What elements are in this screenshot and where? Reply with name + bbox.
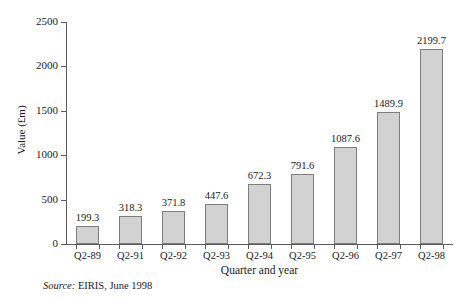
x-tick-mark	[142, 244, 143, 249]
bar-chart-figure: Value (£m) 05001000150020002500 Q2-89Q2-…	[0, 0, 461, 298]
y-tick-mark	[61, 155, 67, 156]
x-tick-mark	[420, 244, 421, 249]
y-tick-mark	[61, 111, 67, 112]
x-tick-mark	[334, 244, 335, 249]
bar-value-label: 1489.9	[359, 98, 419, 109]
x-tick-mark	[205, 244, 206, 249]
x-tick-mark	[228, 244, 229, 249]
y-tick-label: 2500	[22, 16, 58, 27]
y-tick-label: 2000	[22, 60, 58, 71]
x-tick-mark	[291, 244, 292, 249]
bar	[162, 211, 185, 244]
y-tick-label: 1000	[22, 149, 58, 160]
y-tick-label-wrap: 2000	[20, 60, 58, 71]
source-value: EIRIS, June 1998	[78, 280, 152, 291]
x-tick-mark	[162, 244, 163, 249]
bar-value-label: 1087.6	[316, 133, 376, 144]
bar-value-label: 791.6	[273, 160, 333, 171]
x-tick-mark	[248, 244, 249, 249]
y-tick-label-wrap: 1000	[20, 149, 58, 160]
y-tick-mark	[61, 66, 67, 67]
bar	[291, 174, 314, 244]
x-tick-mark	[185, 244, 186, 249]
x-axis-title: Quarter and year	[66, 264, 453, 277]
bar	[119, 216, 142, 244]
x-axis-line	[66, 244, 453, 245]
y-tick-label-wrap: 0	[20, 238, 58, 249]
x-tick-mark	[99, 244, 100, 249]
y-tick-mark	[61, 200, 67, 201]
x-tick-label: Q2-98	[402, 250, 461, 262]
bar-value-label: 447.6	[187, 190, 247, 201]
y-tick-mark	[61, 22, 67, 23]
x-tick-mark	[377, 244, 378, 249]
bar	[420, 49, 443, 244]
x-tick-mark	[357, 244, 358, 249]
y-tick-label-wrap: 1500	[20, 105, 58, 116]
bar	[377, 112, 400, 244]
x-tick-mark	[314, 244, 315, 249]
bar	[205, 204, 228, 244]
bar	[248, 184, 271, 244]
y-tick-label: 500	[22, 194, 58, 205]
y-tick-label: 0	[22, 238, 58, 249]
x-tick-mark	[119, 244, 120, 249]
x-tick-mark	[400, 244, 401, 249]
y-tick-mark	[61, 244, 67, 245]
y-tick-label: 1500	[22, 105, 58, 116]
bar	[76, 226, 99, 244]
source-label: Source:	[43, 280, 75, 291]
x-tick-mark	[271, 244, 272, 249]
x-tick-mark	[76, 244, 77, 249]
y-tick-label-wrap: 2500	[20, 16, 58, 27]
bar-value-label: 199.3	[58, 212, 118, 223]
y-tick-label-wrap: 500	[20, 194, 58, 205]
y-axis-title: Value (£m)	[12, 85, 30, 175]
source-note: Source: EIRIS, June 1998	[43, 280, 152, 292]
bar-value-label: 2199.7	[402, 35, 461, 46]
bar-value-label: 672.3	[230, 170, 290, 181]
x-tick-mark	[443, 244, 444, 249]
bar	[334, 147, 357, 244]
